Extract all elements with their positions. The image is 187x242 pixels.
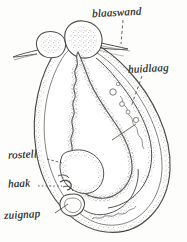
vesicle [116,82,119,85]
label-rostell: rostell [8,147,38,161]
anatomical-figure: blaaswand huidlaag rostell haak zuignap [0,0,187,242]
vesicle [110,89,116,95]
label-huidlaag: huidlaag [128,61,169,75]
vesicle [126,110,130,114]
label-zuignap: zuignap [4,207,41,221]
vesicle [133,117,138,122]
left-lobe-texture [40,35,61,53]
vesicle [120,102,125,107]
label-haak: haak [8,176,31,189]
left-tail [13,50,38,57]
leader-blaaswand [121,20,123,44]
cysticercus-drawing [0,0,187,242]
